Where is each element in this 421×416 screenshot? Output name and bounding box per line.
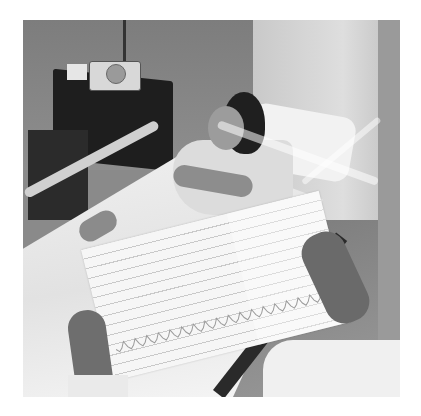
coat-cuff <box>68 375 128 397</box>
monitor-dial-icon <box>106 64 126 84</box>
coat-sleeve <box>263 340 400 397</box>
tissue-box <box>67 64 87 80</box>
photograph <box>23 20 400 397</box>
power-cord <box>123 20 126 65</box>
